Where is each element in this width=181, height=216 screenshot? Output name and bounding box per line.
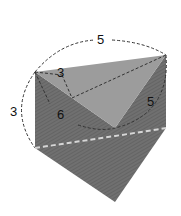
- prism-diagram: 5 3 3 6 5: [0, 0, 181, 216]
- label-top-short: 3: [57, 65, 64, 80]
- label-inner: 6: [57, 107, 64, 122]
- label-left-arc: 3: [10, 104, 17, 119]
- label-top-arc: 5: [97, 32, 104, 47]
- label-right: 5: [147, 94, 154, 109]
